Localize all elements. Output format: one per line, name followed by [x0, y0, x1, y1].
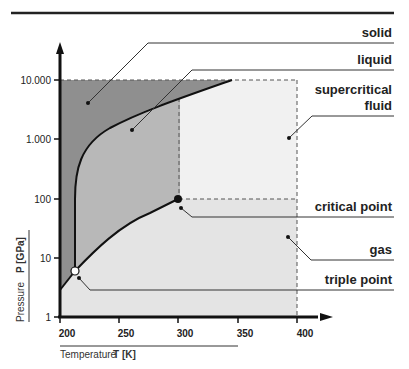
y-tick-10: 10 — [40, 253, 52, 264]
leader-supercritical — [289, 116, 394, 138]
y-tick-10000: 10.000 — [20, 75, 51, 86]
label-fluid: fluid — [365, 98, 392, 113]
x-tick-350: 350 — [237, 328, 254, 339]
x-tick-400: 400 — [297, 328, 314, 339]
critical-point-marker — [174, 195, 182, 203]
phase-diagram-chart: 10.000 1.000 100 10 1 200 250 300 350 40… — [0, 0, 409, 369]
y-axis-title-symbol: P [GPa] — [15, 237, 26, 273]
y-axis-arrow-icon — [56, 42, 64, 54]
x-tick-300: 300 — [177, 328, 194, 339]
y-ticks: 10.000 1.000 100 10 1 — [20, 75, 60, 323]
x-axis-title-symbol: T [K] — [113, 349, 136, 360]
label-supercritical: supercritical — [315, 82, 392, 97]
label-triple-point: triple point — [325, 272, 393, 287]
triple-point-marker — [71, 267, 79, 275]
y-tick-1: 1 — [45, 312, 51, 323]
x-axis-arrow-icon — [320, 313, 333, 321]
x-tick-200: 200 — [59, 328, 76, 339]
y-tick-100: 100 — [34, 194, 51, 205]
x-axis-title-word: Temperature — [60, 349, 117, 360]
x-tick-250: 250 — [118, 328, 135, 339]
label-gas: gas — [370, 242, 392, 257]
y-axis-title-word: Pressure — [15, 282, 26, 322]
label-solid: solid — [362, 25, 392, 40]
x-ticks: 200 250 300 350 400 — [59, 317, 314, 339]
label-critical-point: critical point — [315, 199, 393, 214]
label-liquid: liquid — [357, 52, 392, 67]
y-tick-1000: 1.000 — [26, 134, 51, 145]
